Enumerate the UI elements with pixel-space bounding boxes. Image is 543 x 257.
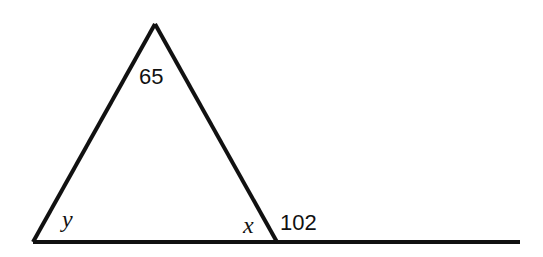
left-angle-label: y bbox=[60, 206, 73, 232]
right-interior-angle-label: x bbox=[242, 212, 254, 238]
exterior-angle-label: 102 bbox=[280, 210, 317, 235]
triangle-left-side bbox=[33, 24, 155, 242]
apex-angle-label: 65 bbox=[139, 64, 163, 89]
triangle-diagram: 65 y x 102 bbox=[0, 0, 543, 257]
triangle-right-side bbox=[155, 24, 277, 242]
